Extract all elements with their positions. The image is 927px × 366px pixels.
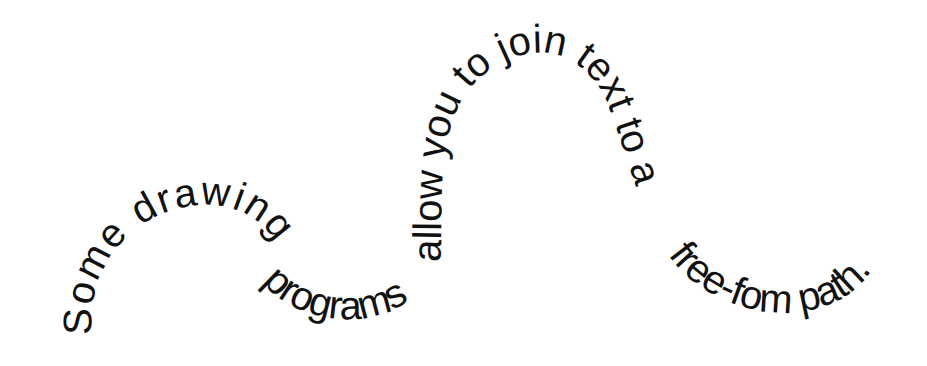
path-text-segment-1: Some drawing [55, 168, 305, 335]
path-text-segment-4: free-fom path. [662, 233, 878, 321]
path-text-segment-2: programs [256, 257, 413, 328]
path-text-segment-3: allow you to join text to a [404, 16, 670, 262]
text-on-path-figure: Some drawing programs allow you to join … [0, 0, 927, 366]
